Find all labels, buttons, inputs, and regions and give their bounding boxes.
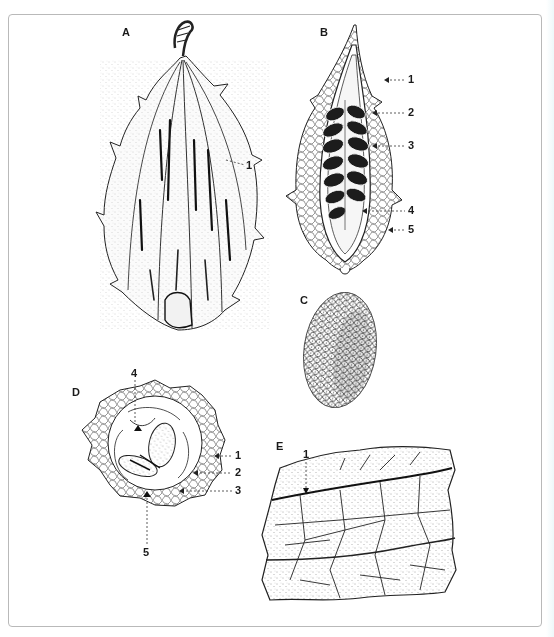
botanical-plate-drawing [0, 0, 554, 637]
callout-e-1: 1 [303, 448, 309, 460]
callout-d-3: 3 [235, 484, 241, 496]
callout-b-5: 5 [408, 223, 414, 235]
callout-b-3: 3 [408, 139, 414, 151]
panel-d-cross-section [82, 380, 232, 545]
panel-e-leaf [262, 447, 456, 600]
callout-d-4: 4 [131, 367, 137, 379]
callout-b-4: 4 [408, 204, 414, 216]
callout-a-1: 1 [246, 159, 252, 171]
panel-b-section [286, 25, 405, 274]
callout-d-5: 5 [143, 546, 149, 558]
panel-c-seed [296, 288, 383, 413]
panel-label-e: E [276, 440, 283, 452]
panel-label-c: C [300, 294, 308, 306]
panel-label-b: B [320, 26, 328, 38]
callout-d-2: 2 [235, 466, 241, 478]
callout-b-1: 1 [408, 73, 414, 85]
panel-label-a: A [122, 26, 130, 38]
callout-d-1: 1 [235, 449, 241, 461]
callout-b-2: 2 [408, 106, 414, 118]
panel-a-fruit [96, 22, 270, 330]
panel-label-d: D [72, 386, 80, 398]
